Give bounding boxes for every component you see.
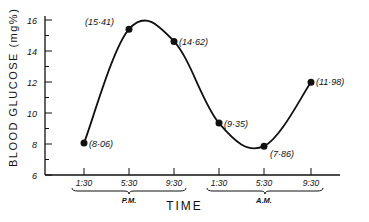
blood-glucose-chart: 68101214161:305:309:301:305:309:30P.M.A.…	[0, 0, 369, 222]
data-point-label: (15·41)	[85, 17, 114, 27]
y-tick-label: 14	[27, 47, 37, 57]
y-axis-title: BLOOD GLUCOSE (mg%)	[7, 17, 23, 167]
y-tick-label: 8	[32, 140, 37, 150]
y-tick-label: 6	[32, 171, 37, 181]
data-point	[126, 26, 133, 33]
data-point-label: (7·86)	[270, 149, 294, 159]
pm-brace	[72, 188, 186, 194]
y-tick-label: 16	[27, 16, 37, 26]
x-tick-label: 9:30	[303, 178, 320, 188]
x-axis-title: TIME	[0, 199, 369, 213]
x-tick-label: 1:30	[211, 178, 228, 188]
data-point	[308, 79, 315, 86]
data-point	[216, 120, 223, 127]
data-point	[81, 140, 88, 147]
data-point-label: (11·98)	[316, 77, 344, 87]
data-point-label: (8·06)	[89, 139, 113, 149]
data-point	[261, 143, 268, 150]
y-tick-label: 12	[27, 78, 37, 88]
x-tick-label: 9:30	[166, 178, 183, 188]
x-tick-label: 1:30	[76, 178, 93, 188]
x-tick-label: 5:30	[256, 178, 273, 188]
am-brace	[207, 188, 323, 194]
chart-canvas: 68101214161:305:309:301:305:309:30P.M.A.…	[0, 0, 369, 222]
y-tick-label: 10	[27, 109, 37, 119]
x-tick-label: 5:30	[121, 178, 138, 188]
data-point	[171, 38, 178, 45]
data-point-label: (14·62)	[179, 37, 208, 47]
data-point-label: (9·35)	[224, 119, 248, 129]
